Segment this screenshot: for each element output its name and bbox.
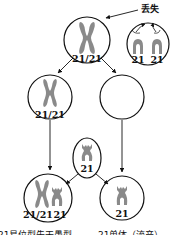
caption-right: 21单体（流产） (98, 229, 163, 235)
acrocentric-chromosome-icon (52, 187, 63, 206)
metacentric-chromosome-icon (35, 180, 49, 208)
parent-translocation-cell: 21/21 (64, 17, 110, 64)
offspring-monosomy-cell: 21 (100, 176, 144, 220)
acrocentric-chromosome-icon (82, 144, 93, 161)
acrocentric-chromosome-icon (133, 39, 143, 54)
normal-gamete-cell: 21 (73, 138, 101, 178)
caption-left: 21易位型先天愚型 (0, 229, 72, 235)
lost-arrow-icon (106, 10, 138, 18)
normal-gamete-label: 21 (80, 163, 93, 174)
arrow-down-right-icon (101, 58, 116, 73)
arrow-down-left-icon (58, 58, 73, 73)
gamete-empty-cell (100, 75, 144, 119)
gamete-translocation-label: 21/21 (35, 109, 65, 120)
metacentric-chromosome-icon (43, 79, 57, 107)
arrow-down-left-icon (66, 174, 78, 184)
offspring-translocation-label-left: 21/21 (23, 209, 53, 220)
lost-fragment-label-right: 21 (150, 54, 163, 65)
offspring-monosomy-label: 21 (115, 208, 128, 219)
offspring-translocation-label-right: 21 (53, 209, 66, 220)
lost-label: 丢失 (141, 3, 160, 14)
lost-fragment-label-left: 21 (131, 54, 144, 65)
offspring-translocation-cell: 21/21 21 (23, 174, 72, 222)
gamete-translocation-cell: 21/21 (28, 75, 72, 120)
lost-fragments-cell: 21 21 (127, 23, 169, 65)
metacentric-chromosome-icon (79, 22, 95, 54)
acrocentric-chromosome-icon (152, 39, 162, 54)
translocation-diagram: 21/21 21 21 丢失 21/21 (0, 0, 172, 235)
parent-translocation-label: 21/21 (72, 53, 102, 64)
acrocentric-chromosome-icon (117, 186, 128, 205)
